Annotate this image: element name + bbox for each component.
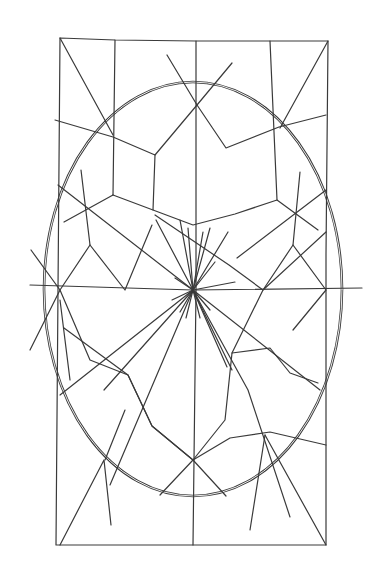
web-line — [167, 55, 326, 148]
web-line — [113, 195, 153, 210]
web-line — [113, 40, 115, 195]
web-line — [270, 41, 277, 200]
web-line — [60, 290, 193, 395]
web-line — [265, 435, 326, 545]
geometric-drawing — [30, 38, 362, 545]
burst-spoke — [193, 282, 235, 290]
web-line — [160, 460, 226, 496]
web-line — [60, 300, 70, 380]
web-line — [153, 155, 318, 230]
web-line — [60, 460, 111, 545]
web-line — [60, 170, 318, 460]
web-line — [280, 41, 328, 128]
web-line — [232, 172, 300, 353]
web-line — [250, 435, 265, 530]
web-line — [60, 38, 113, 135]
web-line — [104, 290, 193, 485]
line-drawing-canvas — [0, 0, 389, 580]
burst-spoke — [180, 220, 193, 290]
web-line — [237, 190, 326, 258]
web-line — [105, 410, 125, 460]
